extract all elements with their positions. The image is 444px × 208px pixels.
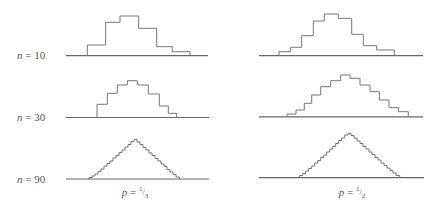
binomial-histogram-figure: [0, 0, 444, 208]
fraction-numerator: 1: [139, 185, 143, 193]
column-label-p-one-third: p = 1/3: [122, 185, 148, 199]
fraction-numerator: 1: [356, 185, 360, 193]
row-label-eq: =: [23, 173, 35, 185]
histogram-n10-p-one-third: [66, 16, 208, 56]
histogram-n10-p-one-half: [259, 14, 423, 56]
row-label-value: 30: [34, 111, 45, 123]
row-label-value: 90: [34, 173, 45, 185]
step-outline-n30-p-one-third: [97, 81, 177, 118]
histogram-n90-p-one-third: [66, 140, 209, 180]
histogram-n30-p-one-third: [66, 81, 209, 118]
fraction-denominator: 3: [145, 191, 149, 199]
col-label-fraction: 1/3: [139, 188, 148, 197]
step-outline-n10-p-one-half: [279, 14, 394, 56]
step-outline-n30-p-one-half: [287, 75, 408, 117]
histogram-n30-p-one-half: [259, 75, 423, 117]
col-label-eq: =: [344, 186, 356, 198]
fraction-denominator: 2: [362, 191, 366, 199]
histogram-n90-p-one-half: [259, 133, 424, 177]
row-label-n10: n = 10: [17, 49, 45, 61]
step-outline-n90-p-one-third: [89, 140, 180, 180]
step-outline-n90-p-one-half: [300, 133, 400, 177]
col-label-eq: =: [127, 186, 139, 198]
row-label-n90: n = 90: [17, 173, 45, 185]
row-label-eq: =: [23, 111, 35, 123]
step-outline-n10-p-one-third: [87, 16, 190, 56]
row-label-eq: =: [23, 49, 35, 61]
column-label-p-one-half: p = 1/2: [339, 185, 365, 199]
col-label-fraction: 1/2: [356, 188, 365, 197]
row-label-value: 10: [34, 49, 45, 61]
row-label-n30: n = 30: [17, 111, 45, 123]
